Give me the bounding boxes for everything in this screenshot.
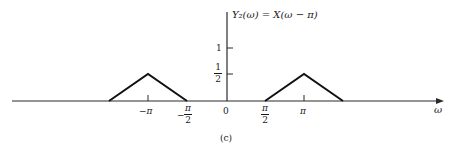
x-tick-label-neg-pi: −π bbox=[139, 106, 152, 116]
plot-canvas bbox=[0, 0, 451, 148]
x-tick-half-pi-num: π bbox=[262, 104, 268, 113]
y-tick-half-num: 1 bbox=[215, 63, 221, 72]
x-tick-neg-half-pi-num: π bbox=[185, 104, 191, 113]
x-tick-half-pi-den: 2 bbox=[262, 116, 268, 125]
y-tick-label-1: 1 bbox=[216, 43, 222, 53]
figure-caption: (c) bbox=[220, 133, 232, 143]
function-title: Y₂(ω) = X(ω − π) bbox=[232, 10, 318, 20]
y-tick-label-half: 1 2 bbox=[214, 63, 222, 84]
x-tick-label-half-pi: π 2 bbox=[261, 104, 269, 125]
x-tick-neg-half-pi-den: 2 bbox=[185, 116, 191, 125]
x-tick-label-neg-half-pi: π 2 bbox=[184, 104, 192, 125]
y-tick-half-den: 2 bbox=[215, 75, 221, 84]
x-tick-label-pi: π bbox=[300, 106, 306, 116]
x-tick-label-zero: 0 bbox=[223, 106, 229, 116]
x-axis-label: ω bbox=[434, 105, 442, 115]
